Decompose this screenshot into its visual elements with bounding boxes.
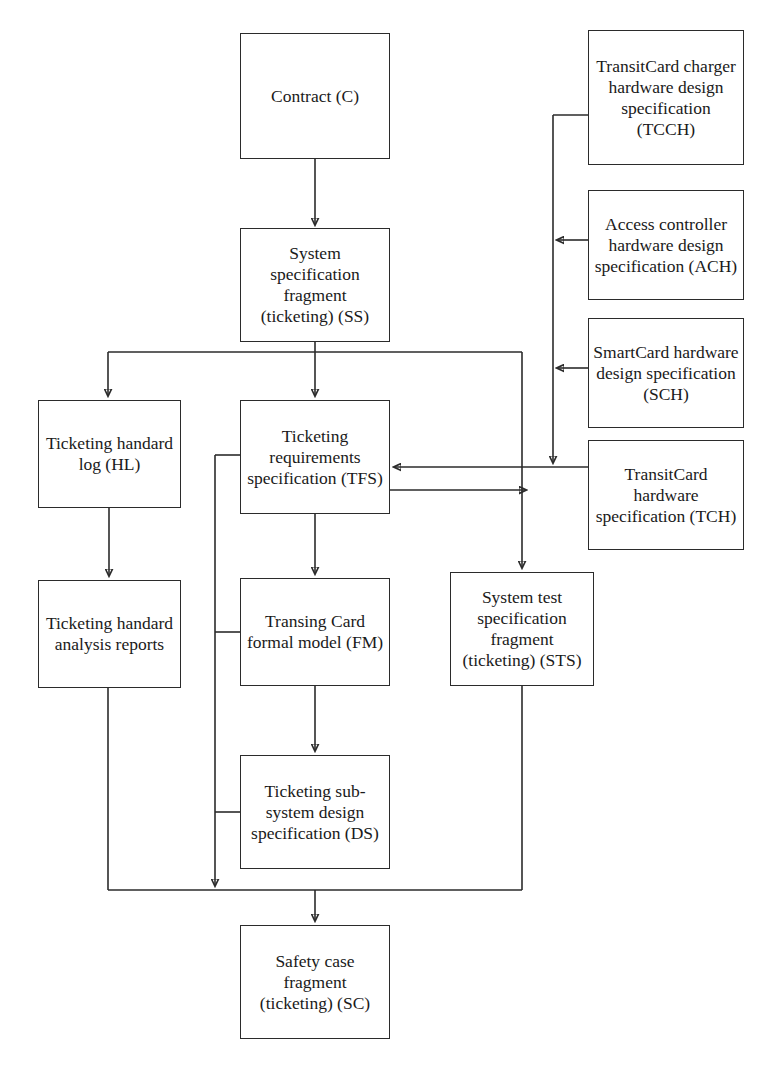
node-ticketing-requirements-specification[interactable]: Ticketing requirements specification (TF… (240, 400, 390, 514)
node-transing-card-formal-model[interactable]: Transing Card formal model (FM) (240, 578, 390, 686)
node-label-tch: TransitCard hardware specification (TCH) (593, 464, 739, 527)
node-ticketing-subsystem-design-specification[interactable]: Ticketing sub-system design specificatio… (240, 755, 390, 869)
node-access-controller-hw-spec[interactable]: Access controller hardware design specif… (588, 190, 744, 300)
node-label-tcch: TransitCard charger hardware design spec… (593, 56, 739, 140)
node-ticketing-handard-analysis-reports[interactable]: Ticketing handard analysis reports (38, 580, 181, 688)
node-smartcard-hw-spec[interactable]: SmartCard hardware design specification … (588, 318, 744, 428)
node-safety-case-fragment[interactable]: Safety case fragment (ticketing) (SC) (240, 925, 390, 1039)
node-label-hl: Ticketing handard log (HL) (43, 433, 176, 475)
node-ticketing-handard-log[interactable]: Ticketing handard log (HL) (38, 400, 181, 508)
node-label-sts: System test specification fragment (tick… (455, 587, 589, 671)
node-transitcard-charger-hw-spec[interactable]: TransitCard charger hardware design spec… (588, 30, 744, 165)
node-label-ss: System specification fragment (ticketing… (245, 243, 385, 327)
node-label-contract: Contract (C) (271, 86, 359, 107)
node-contract[interactable]: Contract (C) (240, 33, 390, 159)
node-label-har: Ticketing handard analysis reports (43, 613, 176, 655)
node-label-ds: Ticketing sub-system design specificatio… (245, 781, 385, 844)
node-label-sch: SmartCard hardware design specification … (593, 342, 739, 405)
node-label-ach: Access controller hardware design specif… (593, 214, 739, 277)
node-label-fm: Transing Card formal model (FM) (245, 611, 385, 653)
node-system-specification-fragment[interactable]: System specification fragment (ticketing… (240, 228, 390, 342)
node-label-sc: Safety case fragment (ticketing) (SC) (245, 951, 385, 1014)
diagram-canvas: Contract (C) TransitCard charger hardwar… (0, 0, 780, 1069)
node-transitcard-hw-spec[interactable]: TransitCard hardware specification (TCH) (588, 440, 744, 550)
node-label-tfs: Ticketing requirements specification (TF… (245, 426, 385, 489)
node-system-test-specification-fragment[interactable]: System test specification fragment (tick… (450, 572, 594, 686)
